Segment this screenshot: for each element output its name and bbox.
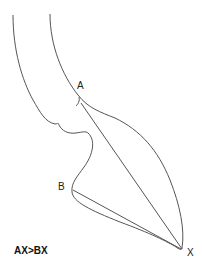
outer-contour bbox=[13, 15, 88, 133]
point-a-tick bbox=[76, 97, 79, 106]
line-ax bbox=[81, 103, 182, 249]
line-bx bbox=[73, 190, 181, 249]
profile-contour bbox=[50, 14, 183, 248]
point-x-label: X bbox=[187, 248, 194, 258]
profile-diagram bbox=[0, 0, 202, 265]
point-a-label: A bbox=[77, 81, 84, 91]
caption: AX>BX bbox=[14, 245, 48, 256]
point-b-label: B bbox=[58, 182, 65, 192]
lower-contour bbox=[72, 133, 182, 249]
